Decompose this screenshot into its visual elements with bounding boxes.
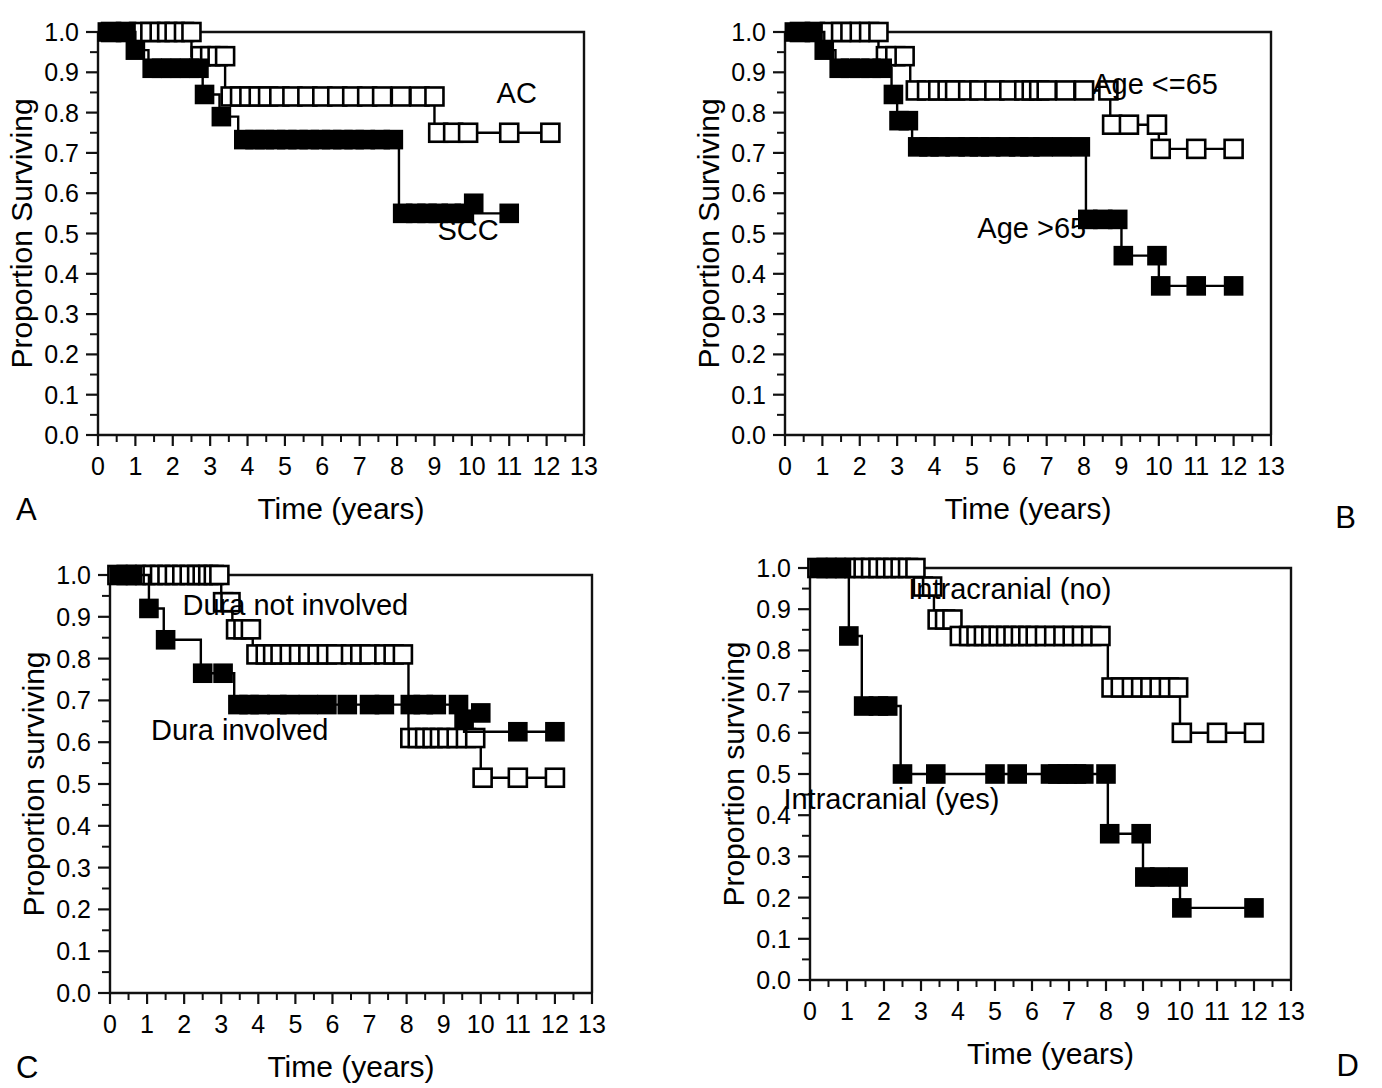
x-axis-title: Time (years) [967, 1037, 1134, 1070]
censor-marker [338, 696, 356, 714]
y-tick-label: 0.8 [756, 636, 791, 664]
censor-marker [157, 631, 175, 649]
x-tick-label: 1 [840, 997, 854, 1025]
x-tick-label: 11 [496, 452, 522, 480]
step-line [98, 32, 554, 133]
censor-marker [196, 85, 214, 103]
x-tick-label: 11 [505, 1010, 531, 1038]
y-tick-label: 0.1 [44, 381, 79, 409]
censor-marker [242, 620, 260, 638]
y-tick-label: 0.3 [731, 300, 766, 328]
y-tick-label: 0.5 [44, 220, 79, 248]
x-tick-label: 8 [1099, 997, 1113, 1025]
censor-marker [1225, 140, 1243, 158]
x-tick-label: 7 [353, 452, 367, 480]
x-tick-label: 8 [1077, 452, 1091, 480]
panel-c: 0123456789101112130.00.10.20.30.40.50.60… [0, 544, 691, 1088]
x-tick-label: 5 [988, 997, 1002, 1025]
curve-label: Age <=65 [1092, 68, 1218, 100]
y-tick-label: 0.4 [56, 812, 91, 840]
y-tick-label: 0.9 [731, 58, 766, 86]
x-axis-title: Time (years) [257, 492, 424, 525]
y-tick-label: 0.3 [56, 854, 91, 882]
x-tick-label: 10 [458, 452, 486, 480]
x-tick-label: 11 [1183, 452, 1209, 480]
x-tick-label: 0 [91, 452, 105, 480]
censor-marker [1008, 765, 1026, 783]
censor-marker [126, 41, 144, 59]
censor-marker [509, 723, 527, 741]
y-axis-title: Proportion surviving [17, 651, 50, 916]
x-tick-label: 5 [965, 452, 979, 480]
curve-label: AC [497, 77, 537, 109]
censor-marker [840, 627, 858, 645]
censor-marker [459, 124, 477, 142]
censor-marker [1056, 81, 1074, 99]
x-tick-label: 10 [1145, 452, 1173, 480]
censor-marker [373, 87, 391, 105]
x-tick-label: 6 [326, 1010, 340, 1038]
y-tick-label: 0.1 [56, 937, 91, 965]
series-intracranial-yes [810, 559, 1263, 917]
x-axis-title: Time (years) [944, 492, 1111, 525]
chart-panel-c: 0123456789101112130.00.10.20.30.40.50.60… [0, 544, 691, 1088]
censor-marker [1053, 138, 1071, 156]
x-axis: 012345678910111213 [778, 435, 1285, 480]
y-tick-label: 0.7 [44, 139, 79, 167]
panel-letter: A [16, 492, 37, 527]
x-tick-label: 5 [288, 1010, 302, 1038]
censor-marker [384, 131, 402, 149]
censor-marker [194, 664, 212, 682]
censor-marker [1038, 81, 1056, 99]
chart-panel-a: 0123456789101112130.00.10.20.30.40.50.60… [0, 0, 691, 544]
y-tick-label: 0.3 [756, 842, 791, 870]
x-tick-label: 13 [1277, 997, 1305, 1025]
censor-marker [318, 696, 336, 714]
y-tick-label: 1.0 [56, 561, 91, 589]
y-tick-label: 0.6 [56, 728, 91, 756]
x-tick-label: 4 [251, 1010, 265, 1038]
y-axis-title: Proportion Surviving [692, 98, 725, 368]
y-tick-label: 0.1 [731, 381, 766, 409]
x-tick-label: 2 [166, 452, 180, 480]
censor-marker [1152, 277, 1170, 295]
censor-marker [1103, 116, 1121, 134]
y-tick-label: 0.8 [731, 99, 766, 127]
y-tick-label: 0.7 [731, 139, 766, 167]
censor-marker [1151, 868, 1169, 886]
x-axis: 012345678910111213 [803, 980, 1305, 1025]
censor-marker [804, 23, 822, 41]
censor-marker [546, 769, 564, 787]
censor-marker [392, 87, 410, 105]
y-tick-label: 0.8 [44, 99, 79, 127]
censor-marker [832, 559, 850, 577]
censor-marker [1173, 899, 1191, 917]
x-tick-label: 1 [128, 452, 142, 480]
y-tick-label: 0.6 [731, 179, 766, 207]
x-tick-label: 7 [1040, 452, 1054, 480]
x-tick-label: 13 [1257, 452, 1285, 480]
y-tick-label: 0.7 [56, 686, 91, 714]
curve-label: Age >65 [977, 212, 1086, 244]
x-tick-label: 0 [778, 452, 792, 480]
censor-marker [884, 85, 902, 103]
x-tick-label: 6 [1025, 997, 1039, 1025]
y-tick-label: 0.0 [731, 421, 766, 449]
y-tick-label: 0.6 [44, 179, 79, 207]
censor-marker [1152, 140, 1170, 158]
panel-letter: D [1337, 1048, 1359, 1083]
censor-marker [455, 710, 473, 728]
censor-marker [1075, 765, 1093, 783]
curve-label: SCC [437, 214, 498, 246]
censor-marker [1071, 138, 1089, 156]
censor-marker [1245, 724, 1263, 742]
censor-marker [1169, 678, 1187, 696]
censor-marker [899, 112, 917, 130]
censor-marker [1173, 724, 1191, 742]
censor-marker [1148, 247, 1166, 265]
censor-marker [1208, 724, 1226, 742]
panel-letter: B [1335, 500, 1356, 535]
censor-marker [251, 696, 269, 714]
x-tick-label: 10 [467, 1010, 495, 1038]
y-tick-label: 0.0 [44, 421, 79, 449]
